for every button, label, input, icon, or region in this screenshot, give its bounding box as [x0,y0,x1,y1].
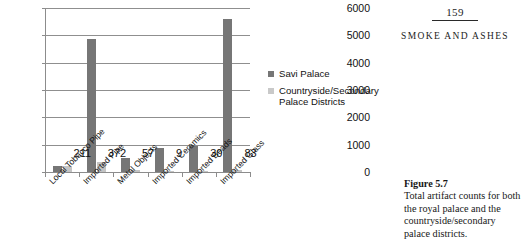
bar-value-label: 372 [108,147,126,159]
x-axis-tick-mark [250,173,251,177]
y-axis-tick-label: 4000 [334,57,370,69]
bar-chart: 0100020003000400050006000 Local Tobacco … [0,0,370,247]
legend-label: Savi Palace [279,68,330,79]
book-page: 159 SMOKE AND ASHES 01000200030004000500… [0,0,525,247]
y-axis-tick-label: 0 [334,166,370,178]
folio-rule [432,20,478,21]
legend-swatch-primary [268,71,274,77]
legend-item: Savi Palace [268,68,370,79]
x-axis-tick-mark [45,173,46,177]
x-axis-tick-mark [113,173,114,177]
gridline [45,63,250,64]
figure-caption-text: Total artifact counts for both the royal… [404,190,524,240]
page-number: 159 [390,6,520,18]
running-title: SMOKE AND ASHES [390,31,520,41]
y-axis-tick-label: 5000 [334,29,370,41]
figure-caption-label: Figure 5.7 [404,178,524,190]
x-axis-tick-mark [216,173,217,177]
chart-legend: Savi PalaceCountryside/Secondary Palace … [268,68,370,113]
legend-swatch-secondary [268,88,274,94]
legend-item: Countryside/Secondary Palace Districts [268,85,370,107]
gridline [45,8,250,9]
bar-value-label: 9 [176,147,182,159]
running-head: 159 SMOKE AND ASHES [390,6,520,41]
x-axis-tick-mark [182,173,183,177]
y-axis-tick-label: 2000 [334,111,370,123]
legend-label: Countryside/Secondary Palace Districts [279,85,379,107]
gridline [45,35,250,36]
y-axis-tick-label: 1000 [334,139,370,151]
figure-caption: Figure 5.7 Total artifact counts for bot… [404,178,524,240]
x-axis-tick-mark [148,173,149,177]
bar-value-label: 211 [74,147,92,159]
bar-value-label: 30 [210,147,222,159]
y-axis-tick-label: 6000 [334,2,370,14]
x-axis-tick-mark [79,173,80,177]
bar-value-label: 57 [142,147,154,159]
gridline [45,90,250,91]
bar-value-label: 83 [244,147,256,159]
gridline [45,117,250,118]
